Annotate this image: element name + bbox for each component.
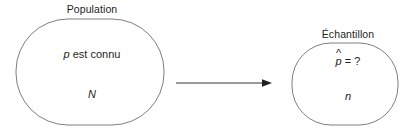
sampling-diagram: Population p est connu N Échantillon ^ p… [0, 0, 418, 136]
population-ellipse-shape [16, 19, 164, 125]
sampling-arrow-head [262, 79, 272, 86]
sample-caption: Échantillon [256, 28, 418, 40]
sample-estimate-relation: = ? [345, 55, 361, 67]
population-caption: Population [0, 3, 184, 15]
sample-estimate: ^ p = ? [256, 55, 418, 68]
population-known-parameter: p est connu [0, 48, 184, 61]
sample-size-symbol: n [256, 90, 418, 103]
population-known-text: est connu [73, 48, 121, 60]
population-size-symbol: N [0, 88, 184, 101]
diagram-shapes [0, 0, 418, 136]
p-hat-symbol: ^ p [336, 55, 342, 68]
circumflex-accent-icon: ^ [336, 48, 341, 59]
